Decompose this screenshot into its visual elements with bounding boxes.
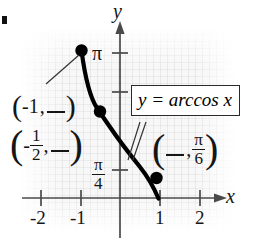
comma-3: , [185, 139, 192, 159]
point-label-pi-over-6: ( , π 6 ) [152, 130, 218, 168]
plot-canvas [0, 0, 264, 242]
leader-line-callout-a [128, 122, 140, 160]
data-point-pi-over-6 [150, 172, 162, 184]
minus-sign-2: - [23, 135, 30, 155]
x-tick-label-neg1: -1 [70, 208, 86, 227]
y-tick-label-pi-over-4: π 4 [92, 156, 105, 192]
point-label-1-x: -1 [22, 96, 39, 116]
y-tick-label-pi: π [92, 43, 102, 63]
comma-1: , [39, 96, 46, 116]
paren-open-3: ( [152, 130, 165, 168]
x-tick-label-2: 2 [195, 208, 205, 227]
data-point-neg1 [75, 44, 87, 56]
paren-close-3: ) [205, 130, 218, 168]
equation-callout-box: y = arccos x [131, 85, 240, 116]
paren-close-1: ) [66, 92, 76, 121]
leader-line-callout-b [133, 122, 146, 160]
paren-open-2: ( [10, 126, 23, 164]
x-axis-label: x [226, 186, 235, 206]
point-label-neg-half: ( - 1 2 , ) [10, 126, 83, 164]
paren-close-2: ) [70, 126, 83, 164]
x-tick-label-1: 1 [155, 208, 165, 227]
arccos-graph-figure: x y -2 -1 1 2 π π 4 ( -1 , ) ( - 1 2 , )… [0, 0, 264, 242]
blank-1-y [47, 102, 65, 113]
y-axis-label: y [113, 1, 122, 21]
comma-2: , [43, 135, 50, 155]
blank-3-x [166, 145, 184, 156]
y-axis-arrowhead [115, 21, 124, 34]
leader-line-neg1 [46, 55, 79, 84]
x-tick-label-neg2: -2 [30, 208, 46, 227]
blank-2-y [51, 141, 69, 152]
fraction-pi-over-4: π 4 [92, 156, 105, 192]
data-point-neg-half [94, 105, 106, 117]
fraction-one-half: 1 2 [30, 127, 43, 163]
fraction-pi-over-6: π 6 [192, 131, 205, 167]
point-label-neg1: ( -1 , ) [12, 92, 76, 121]
paren-open-1: ( [12, 92, 22, 121]
